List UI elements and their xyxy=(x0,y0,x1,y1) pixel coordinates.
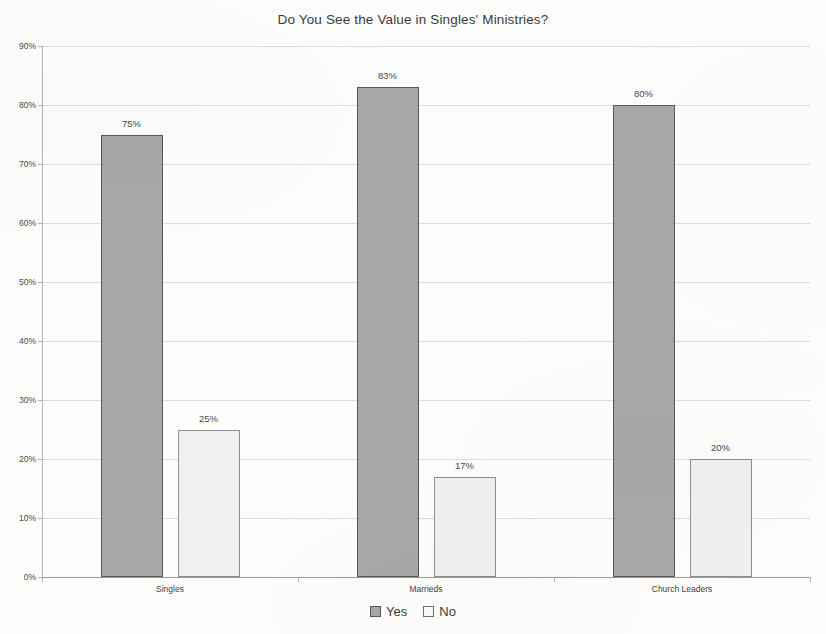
bar-marrieds-yes xyxy=(357,87,419,577)
bar-church-leaders-no xyxy=(690,459,752,577)
y-axis-tick-label: 50% xyxy=(0,277,36,287)
y-axis-tick-label: 40% xyxy=(0,336,36,346)
legend-swatch-no-icon xyxy=(423,606,434,617)
y-axis-tick-label: 70% xyxy=(0,159,36,169)
y-axis-tick-label: 90% xyxy=(0,41,36,51)
x-axis-category-label: Singles xyxy=(156,584,184,594)
plot-area: 75%25%83%17%80%20% xyxy=(42,46,810,577)
x-axis-separator-tick xyxy=(298,577,299,582)
y-axis-tick-label: 30% xyxy=(0,395,36,405)
bar-value-label: 20% xyxy=(711,442,730,453)
bar-value-label: 25% xyxy=(199,413,218,424)
y-axis-tick-label: 60% xyxy=(0,218,36,228)
bar-marrieds-no xyxy=(434,477,496,577)
x-axis-line xyxy=(42,577,810,578)
y-axis-tick-label: 20% xyxy=(0,454,36,464)
x-axis-separator-tick xyxy=(810,577,811,582)
y-axis-tick-label: 80% xyxy=(0,100,36,110)
y-axis-tick-label: 0% xyxy=(0,572,36,582)
x-axis-separator-tick xyxy=(42,577,43,582)
legend-item-no[interactable]: No xyxy=(423,604,456,619)
legend-label: Yes xyxy=(386,604,407,619)
bar-value-label: 75% xyxy=(122,118,141,129)
bar-singles-no xyxy=(178,430,240,578)
bar-value-label: 80% xyxy=(634,88,653,99)
chart-title: Do You See the Value in Singles' Ministr… xyxy=(0,12,826,27)
chart-canvas: Do You See the Value in Singles' Ministr… xyxy=(0,0,826,634)
x-axis-category-label: Church Leaders xyxy=(652,584,712,594)
gridline xyxy=(42,105,810,106)
bar-church-leaders-yes xyxy=(613,105,675,577)
gridline xyxy=(42,46,810,47)
x-axis-separator-tick xyxy=(554,577,555,582)
bar-value-label: 17% xyxy=(455,460,474,471)
legend-swatch-yes-icon xyxy=(370,606,381,617)
chart-legend: YesNo xyxy=(0,604,826,619)
x-axis-category-label: Marrieds xyxy=(409,584,442,594)
y-axis-line xyxy=(42,46,43,577)
bar-value-label: 83% xyxy=(378,70,397,81)
legend-label: No xyxy=(439,604,456,619)
y-axis-tick-label: 10% xyxy=(0,513,36,523)
legend-item-yes[interactable]: Yes xyxy=(370,604,407,619)
bar-singles-yes xyxy=(101,135,163,578)
